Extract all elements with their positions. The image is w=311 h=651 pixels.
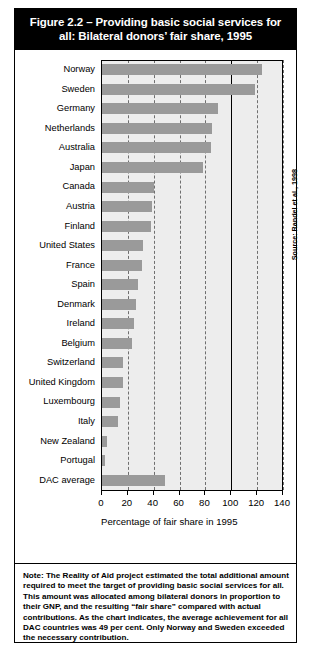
x-tick-label: 140	[274, 497, 290, 508]
x-axis-tick-labels: 020406080100120140	[101, 497, 283, 511]
x-axis-title: Percentage of fair share in 1995	[101, 516, 291, 527]
y-axis-label: United States	[39, 241, 95, 250]
bar	[102, 240, 143, 251]
bar	[102, 182, 154, 193]
bar	[102, 123, 212, 134]
y-axis-label: Belgium	[61, 339, 95, 348]
bar	[102, 162, 203, 173]
bar	[102, 201, 152, 212]
x-axis-ticks	[101, 491, 283, 496]
y-axis-label: DAC average	[39, 476, 95, 485]
y-axis-label: Germany	[57, 104, 95, 113]
x-tick	[153, 491, 154, 495]
bar	[102, 299, 136, 310]
bar	[102, 142, 211, 153]
bar	[102, 279, 138, 290]
x-tick	[230, 491, 231, 495]
figure-title: Figure 2.2 – Providing basic social serv…	[15, 9, 296, 50]
y-axis-label: Norway	[63, 65, 95, 74]
bar	[102, 318, 134, 329]
bar	[102, 436, 107, 447]
y-axis-label: Netherlands	[45, 124, 95, 133]
bar	[102, 84, 255, 95]
reference-line-100	[231, 60, 232, 490]
bar	[102, 416, 118, 427]
bar	[102, 475, 165, 486]
y-axis-label: Ireland	[67, 319, 95, 328]
plot-wrapper: NorwaySwedenGermanyNetherlandsAustraliaJ…	[15, 50, 296, 530]
gridline	[257, 60, 258, 490]
y-axis-label: Spain	[71, 280, 95, 289]
x-tick	[256, 491, 257, 495]
y-axis-label: Australia	[59, 143, 95, 152]
y-axis-label: Canada	[62, 182, 95, 191]
bar	[102, 455, 105, 466]
bar	[102, 64, 262, 75]
plot-top-border	[101, 60, 283, 61]
y-axis-label: United Kingdom	[29, 378, 95, 387]
x-tick	[101, 491, 102, 495]
y-axis-label: Portugal	[60, 456, 95, 465]
bar	[102, 260, 142, 271]
x-tick-label: 60	[173, 497, 184, 508]
y-axis-label: New Zealand	[40, 437, 95, 446]
note-separator	[15, 563, 296, 564]
y-axis-label: Japan	[70, 163, 95, 172]
x-tick-label: 80	[199, 497, 210, 508]
x-tick-label: 20	[122, 497, 133, 508]
figure-note: Note: The Reality of Aid project estimat…	[23, 571, 289, 644]
bar	[102, 397, 120, 408]
x-tick-label: 0	[98, 497, 103, 508]
y-axis-label: Austria	[66, 202, 95, 211]
figure-container: Figure 2.2 – Providing basic social serv…	[14, 8, 297, 643]
y-axis-label: Denmark	[57, 300, 95, 309]
y-axis-label: Luxembourg	[43, 397, 95, 406]
x-tick	[179, 491, 180, 495]
x-tick	[127, 491, 128, 495]
bar	[102, 357, 123, 368]
y-axis-label: Italy	[78, 417, 95, 426]
y-axis-label: Sweden	[61, 85, 95, 94]
x-tick	[204, 491, 205, 495]
y-axis-label: Finland	[65, 222, 96, 231]
y-axis-label: Switzerland	[47, 358, 95, 367]
source-holder: Source: Randel et al., 1998	[280, 64, 292, 204]
x-tick	[282, 491, 283, 495]
y-axis-labels: NorwaySwedenGermanyNetherlandsAustraliaJ…	[15, 60, 99, 490]
source-note: Source: Randel et al., 1998	[290, 169, 299, 260]
bar	[102, 377, 123, 388]
chart-area: NorwaySwedenGermanyNetherlandsAustraliaJ…	[15, 50, 296, 530]
plot-region	[101, 60, 283, 491]
bar	[102, 221, 151, 232]
y-axis-label: France	[66, 261, 95, 270]
bar	[102, 103, 218, 114]
x-tick-label: 40	[147, 497, 158, 508]
x-tick-label: 120	[248, 497, 264, 508]
x-tick-label: 100	[222, 497, 238, 508]
bar	[102, 338, 132, 349]
